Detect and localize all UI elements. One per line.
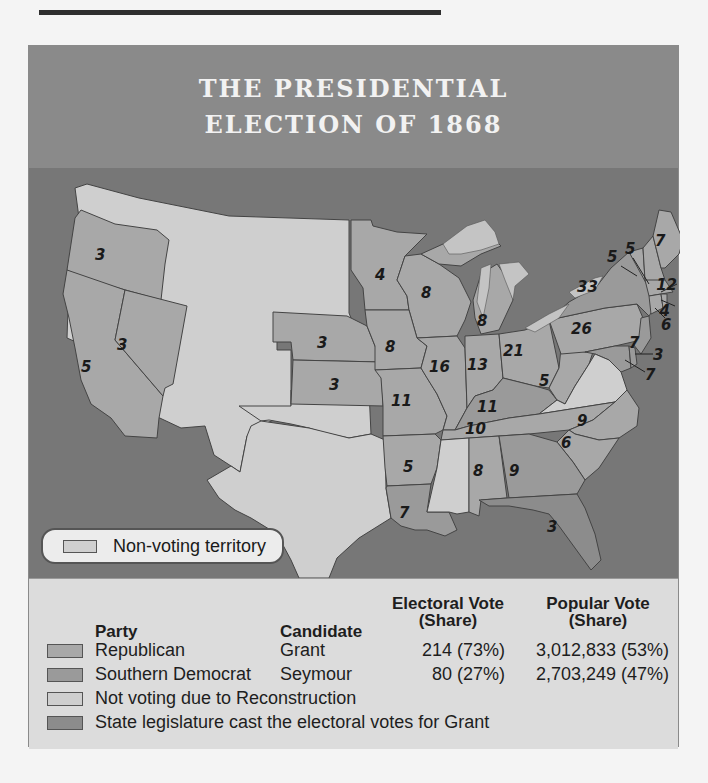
label-ohio: 21 (503, 342, 524, 360)
label-nebraska: 3 (317, 334, 327, 352)
top-rule (39, 10, 441, 15)
swatch-republican-icon (47, 644, 83, 658)
label-south-carolina: 6 (561, 434, 571, 452)
label-north-carolina: 9 (577, 412, 587, 430)
row-republican-popular: 3,012,833 (53%) (523, 639, 669, 661)
row-democrat-party: Southern Democrat (95, 663, 251, 685)
label-maryland: 7 (645, 366, 656, 384)
non-voting-territory-label: Non-voting territory (113, 536, 266, 557)
row-democrat-electoral: 80 (27%) (383, 663, 505, 685)
title-line-2: ELECTION OF 1868 (205, 107, 503, 143)
label-missouri: 11 (391, 392, 412, 410)
label-florida: 3 (547, 518, 557, 536)
label-maine: 7 (655, 232, 666, 250)
label-louisiana: 7 (399, 504, 410, 522)
label-new-york: 33 (577, 278, 598, 296)
label-west-virginia: 5 (539, 372, 549, 390)
label-connecticut: 6 (661, 316, 671, 334)
label-indiana: 13 (467, 356, 488, 374)
title-line-1: THE PRESIDENTIAL (199, 71, 509, 107)
header-popular-line2: (Share) (523, 612, 673, 629)
swatch-non-voting-territory-icon (63, 540, 97, 553)
label-oregon: 3 (95, 246, 105, 264)
swatch-not-voting-icon (47, 692, 83, 706)
election-map-panel: THE PRESIDENTIAL ELECTION OF 1868 (28, 45, 679, 747)
us-map-svg: 3 5 3 3 3 4 8 11 5 7 8 16 8 13 21 11 10 … (29, 168, 680, 578)
row-republican-candidate: Grant (280, 639, 325, 661)
label-michigan: 8 (477, 312, 487, 330)
header-electoral-line1: Electoral Vote (383, 595, 513, 612)
label-nevada: 3 (117, 336, 127, 354)
label-delaware: 3 (653, 346, 663, 364)
row-republican-party: Republican (95, 639, 185, 661)
header-party: Party (95, 623, 138, 640)
state-florida (479, 494, 601, 570)
label-california: 5 (81, 358, 91, 376)
label-arkansas: 5 (403, 458, 413, 476)
header-electoral-line2: (Share) (383, 612, 513, 629)
results-legend-table: Party Candidate Electoral Vote (Share) P… (29, 578, 678, 749)
label-georgia: 9 (509, 462, 519, 480)
swatch-legislature-icon (47, 716, 83, 730)
us-map: 3 5 3 3 3 4 8 11 5 7 8 16 8 13 21 11 10 … (29, 168, 678, 578)
header-candidate: Candidate (280, 623, 362, 640)
label-kansas: 3 (329, 376, 339, 394)
label-kentucky: 11 (477, 398, 498, 416)
label-new-jersey: 7 (629, 334, 640, 352)
label-alabama: 8 (473, 462, 483, 480)
row-republican-electoral: 214 (73%) (383, 639, 505, 661)
swatch-southern-democrat-icon (47, 668, 83, 682)
header-electoral-vote: Electoral Vote (Share) (383, 595, 513, 629)
header-popular-line1: Popular Vote (523, 595, 673, 612)
label-vermont: 5 (607, 248, 617, 266)
row-democrat-candidate: Seymour (280, 663, 352, 685)
header-popular-vote: Popular Vote (Share) (523, 595, 673, 629)
label-minnesota: 4 (374, 266, 385, 284)
label-tennessee: 10 (465, 420, 486, 438)
title-header: THE PRESIDENTIAL ELECTION OF 1868 (29, 46, 678, 168)
label-iowa: 8 (385, 338, 395, 356)
label-illinois: 16 (429, 358, 450, 376)
row-legislature-label: State legislature cast the electoral vot… (95, 711, 489, 733)
row-democrat-popular: 2,703,249 (47%) (523, 663, 669, 685)
non-voting-territory-legend: Non-voting territory (41, 528, 284, 564)
label-pennsylvania: 26 (571, 320, 592, 338)
row-not-voting-label: Not voting due to Reconstruction (95, 687, 356, 709)
label-massachusetts: 12 (656, 276, 677, 294)
label-new-hampshire: 5 (625, 240, 635, 258)
label-wisconsin: 8 (421, 284, 431, 302)
